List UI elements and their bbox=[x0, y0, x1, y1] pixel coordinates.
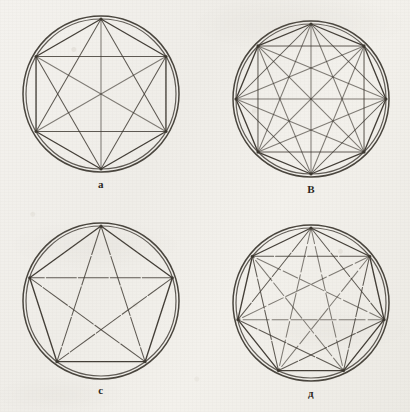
scanned-page: a B c д bbox=[0, 0, 410, 412]
figure-c-double-circle bbox=[23, 223, 179, 379]
figure-d-vertices bbox=[236, 226, 385, 372]
figure-b bbox=[227, 15, 395, 183]
figure-d-drawing bbox=[227, 219, 395, 387]
figure-c-chords bbox=[30, 226, 173, 362]
figure-d bbox=[227, 219, 395, 387]
figure-b-drawing bbox=[227, 15, 395, 183]
figure-a-chords bbox=[36, 19, 166, 169]
figure-a bbox=[17, 10, 185, 178]
figure-c-vertices bbox=[28, 224, 174, 363]
figure-c bbox=[17, 217, 185, 385]
figure-d-chords bbox=[238, 228, 384, 371]
figure-b-caption: B bbox=[271, 183, 351, 195]
figure-d-caption: д bbox=[271, 387, 351, 399]
figure-a-drawing bbox=[17, 10, 185, 178]
figure-d-double-circle bbox=[233, 225, 389, 381]
figure-a-caption: a bbox=[61, 178, 141, 190]
figure-c-drawing bbox=[17, 217, 185, 385]
figure-c-caption: c bbox=[61, 384, 141, 396]
